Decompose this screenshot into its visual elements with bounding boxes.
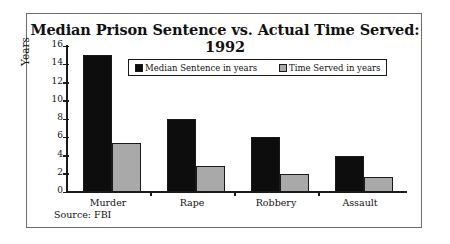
legend-swatch-icon — [135, 64, 143, 72]
x-axis-category-label: Murder — [66, 197, 150, 208]
bar — [167, 119, 196, 192]
x-axis-tick-mark — [318, 192, 320, 196]
x-axis-tick-mark — [234, 192, 236, 196]
x-axis-category-label: Robbery — [234, 197, 318, 208]
bar — [196, 166, 225, 192]
y-axis-tick-label: 2 — [33, 167, 63, 177]
legend-label: Time Served in years — [289, 63, 380, 73]
source-note: Source: FBI — [54, 209, 111, 220]
legend-label: Median Sentence in years — [145, 63, 257, 73]
legend-entry: Time Served in years — [279, 63, 380, 73]
y-axis-tick-label: 4 — [33, 149, 63, 159]
x-axis-category-label: Rape — [150, 197, 234, 208]
x-axis-category-label: Assault — [318, 197, 402, 208]
y-axis-tick-label: 8 — [33, 112, 63, 122]
bar — [280, 174, 309, 192]
y-axis-tick-label: 6 — [33, 130, 63, 140]
chart-figure: Median Prison Sentence vs. Actual Time S… — [26, 13, 422, 228]
y-axis-tick-label: 16 — [33, 39, 63, 49]
y-axis-tick-label: 14 — [33, 57, 63, 67]
x-axis-tick-mark — [150, 192, 152, 196]
bar — [83, 55, 112, 192]
chart-legend: Median Sentence in yearsTime Served in y… — [128, 59, 387, 76]
y-axis-label: Years — [19, 37, 31, 66]
bar — [112, 143, 141, 192]
y-axis-tick-label: 10 — [33, 94, 63, 104]
bar — [364, 177, 393, 192]
legend-entry: Median Sentence in years — [135, 63, 257, 73]
bar — [335, 156, 364, 193]
y-axis-tick-label: 0 — [33, 185, 63, 195]
legend-swatch-icon — [279, 64, 287, 72]
bar — [251, 137, 280, 192]
y-axis-tick-label: 12 — [33, 76, 63, 86]
